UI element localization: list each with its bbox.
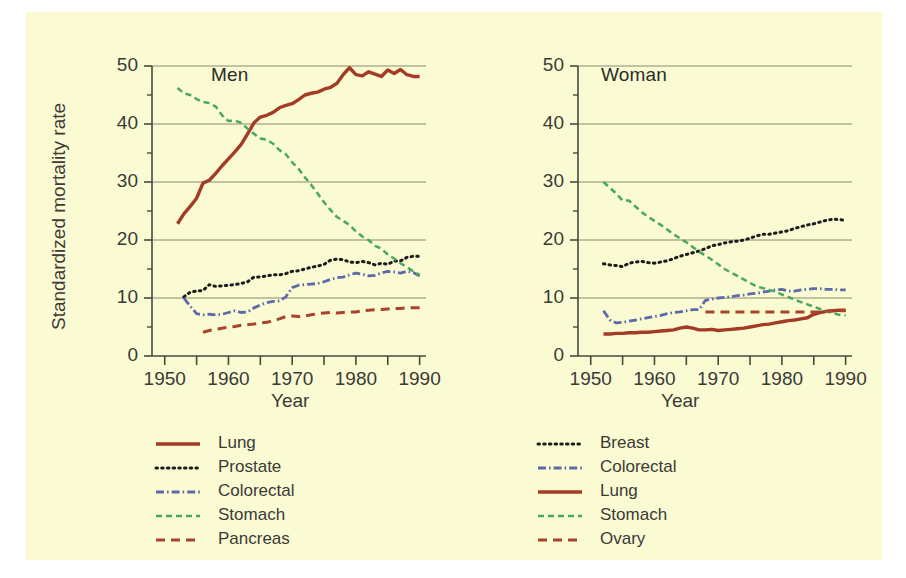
legend-label: Breast — [600, 433, 649, 453]
legend-label: Lung — [218, 433, 256, 453]
x-tick-label: 1990 — [394, 368, 446, 390]
y-tick-label: 10 — [26, 286, 138, 308]
series-line-prostate — [184, 256, 420, 297]
legend-swatch-lung — [154, 432, 202, 456]
x-tick-label: 1970 — [266, 368, 318, 390]
series-line-pancreas — [203, 308, 420, 332]
y-tick-label: 50 — [456, 54, 564, 76]
y-tick-label: 20 — [456, 228, 564, 250]
series-line-lung — [603, 310, 845, 334]
series-line-stomach — [603, 182, 845, 315]
x-axis-label-men: Year — [271, 390, 309, 412]
y-tick-label: 50 — [26, 54, 138, 76]
legend-label: Colorectal — [218, 481, 295, 501]
x-axis-label-women: Year — [661, 390, 699, 412]
legend-swatch-colorectal — [536, 456, 584, 480]
legend-label: Pancreas — [218, 529, 290, 549]
legend-swatch-lung — [536, 480, 584, 504]
legend-swatch-breast — [536, 432, 584, 456]
x-tick-label: 1990 — [820, 368, 872, 390]
y-tick-label: 0 — [456, 344, 564, 366]
legend-label: Lung — [600, 481, 638, 501]
y-tick-label: 40 — [26, 112, 138, 134]
figure-canvas: Standardized mortality rate Men Year 010… — [26, 12, 882, 560]
y-tick-label: 20 — [26, 228, 138, 250]
series-line-breast — [603, 219, 845, 267]
legend-label: Prostate — [218, 457, 281, 477]
panel-men: Men Year 0102030405019501960197019801990 — [26, 12, 456, 412]
x-tick-label: 1960 — [628, 368, 680, 390]
legend-label: Ovary — [600, 529, 645, 549]
x-tick-label: 1960 — [202, 368, 254, 390]
legend-swatch-stomach — [154, 504, 202, 528]
legend-swatch-ovary — [536, 528, 584, 552]
y-tick-label: 10 — [456, 286, 564, 308]
y-tick-label: 0 — [26, 344, 138, 366]
legend-swatch-prostate — [154, 456, 202, 480]
x-tick-label: 1980 — [330, 368, 382, 390]
panel-men-title: Men — [211, 64, 249, 86]
x-tick-label: 1950 — [139, 368, 191, 390]
legend-label: Colorectal — [600, 457, 677, 477]
x-tick-label: 1980 — [756, 368, 808, 390]
legend-swatch-stomach — [536, 504, 584, 528]
y-tick-label: 40 — [456, 112, 564, 134]
legend-label: Stomach — [600, 505, 667, 525]
legend-swatch-colorectal — [154, 480, 202, 504]
legend-label: Stomach — [218, 505, 285, 525]
series-line-stomach — [177, 88, 419, 275]
panel-women-title: Woman — [601, 64, 667, 86]
y-tick-label: 30 — [456, 170, 564, 192]
panel-women: Woman Year 01020304050195019601970198019… — [456, 12, 882, 412]
y-tick-label: 30 — [26, 170, 138, 192]
x-tick-label: 1950 — [565, 368, 617, 390]
series-line-lung — [177, 68, 419, 224]
legend-swatch-pancreas — [154, 528, 202, 552]
x-tick-label: 1970 — [692, 368, 744, 390]
